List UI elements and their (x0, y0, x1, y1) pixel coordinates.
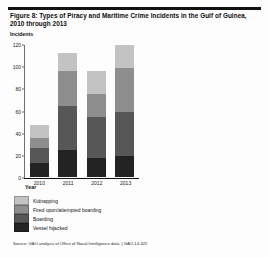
legend-swatch (14, 214, 29, 223)
y-tick-mark (22, 178, 24, 179)
bar-segment (58, 106, 77, 150)
chart-legend: KidnappingFired upon/attempted boardingB… (14, 196, 101, 232)
legend-swatch (14, 205, 29, 214)
bar-segment (58, 71, 77, 106)
x-axis-line (24, 178, 139, 179)
figure-title: Figure 8: Types of Piracy and Maritime C… (10, 12, 262, 27)
bar-segment (115, 45, 134, 68)
bar-segment (115, 112, 134, 156)
bar-2010 (30, 45, 49, 177)
bar-2011 (58, 45, 77, 177)
legend-item: Kidnapping (14, 196, 101, 205)
bar-segment (30, 125, 49, 138)
x-axis-label: Year (25, 184, 36, 190)
legend-item: Boarding (14, 214, 101, 223)
bar-2013 (115, 45, 134, 177)
legend-swatch (14, 223, 29, 232)
bar-segment (87, 117, 106, 158)
y-tick-mark (22, 67, 24, 68)
y-tick-mark (22, 155, 24, 156)
legend-label: Fired upon/attempted boarding (33, 207, 101, 213)
x-tick-label-2012: 2012 (91, 180, 102, 186)
source-note: Source: GAO analysis of Office of Naval … (13, 241, 147, 246)
bar-segment (87, 94, 106, 117)
bar-segment (58, 150, 77, 177)
bar-segment (87, 158, 106, 177)
y-tick-mark (22, 45, 24, 46)
y-tick-mark (22, 111, 24, 112)
bar-segment (58, 53, 77, 71)
figure-page: Figure 8: Types of Piracy and Maritime C… (0, 0, 269, 257)
bar-group (25, 45, 139, 177)
y-axis-label: Incidents (10, 31, 33, 37)
legend-item: Fired upon/attempted boarding (14, 205, 101, 214)
legend-swatch (14, 196, 29, 205)
chart-plot-area: 020406080100120 2010201120122013 (24, 45, 139, 178)
bar-segment (30, 138, 49, 148)
bar-2012 (87, 45, 106, 177)
bar-segment (30, 163, 49, 177)
x-tick-label-2013: 2013 (120, 180, 131, 186)
bar-segment (115, 68, 134, 112)
legend-label: Boarding (33, 216, 53, 222)
title-rule (8, 7, 261, 10)
y-tick-mark (22, 89, 24, 90)
bar-segment (115, 156, 134, 177)
y-tick-mark (22, 133, 24, 134)
x-tick-label-2011: 2011 (63, 180, 74, 186)
legend-label: Vessel hijacked (33, 225, 67, 231)
legend-label: Kidnapping (33, 198, 58, 204)
bar-segment (87, 71, 106, 94)
legend-item: Vessel hijacked (14, 223, 101, 232)
bar-segment (30, 148, 49, 162)
